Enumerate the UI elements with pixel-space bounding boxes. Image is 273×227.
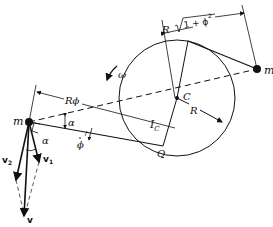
radius-to-tangent-top [177, 41, 188, 98]
label-radius: R [189, 105, 198, 116]
phi-dot-mark [79, 137, 81, 139]
right-angle-mark [32, 123, 38, 133]
dimension-line-rphi-right [82, 104, 175, 128]
dimension-extension-right [242, 5, 257, 69]
label-mass-left: m [13, 115, 23, 128]
radius-r-arrow [200, 110, 222, 122]
label-q: Q [157, 148, 165, 159]
label-center: C [183, 91, 191, 102]
mechanics-diagram: m m C R ω IC Q Rϕ R 1 + ϕ 2 α α ϕ v v1 v… [0, 0, 273, 227]
velocity-v1 [29, 122, 39, 162]
dimension-extension-left [29, 85, 36, 122]
velocity-parallelogram-a [16, 180, 24, 214]
label-inertia: IC [149, 118, 160, 133]
label-v2: v2 [2, 155, 12, 166]
label-phi-dot: ϕ [77, 139, 84, 150]
radius-to-q [163, 98, 177, 146]
label-arc-length: Rϕ [64, 95, 80, 106]
omega-arrow-icon [107, 66, 117, 80]
label-alpha-top: α [68, 117, 75, 128]
string-right [188, 41, 257, 69]
label-v: v [27, 215, 33, 225]
phi-dot-arrow-icon [89, 128, 92, 140]
label-mass-right: m [264, 64, 273, 77]
label-sqrt-expression: 1 + ϕ 2 [175, 12, 215, 32]
mass-right [253, 65, 261, 73]
dashed-line-m-to-m [29, 69, 257, 122]
label-v1: v1 [43, 154, 53, 165]
string-left [29, 122, 163, 146]
label-length-r: R [161, 24, 170, 35]
label-sqrt-inner: 1 + ϕ [183, 17, 209, 30]
label-alpha-side: α [42, 135, 49, 146]
dimension-line-r-sqrt-right [215, 13, 244, 17]
label-omega: ω [118, 69, 126, 80]
dimension-line-rphi-left [37, 92, 64, 99]
label-sqrt-exp: 2 [208, 12, 212, 19]
